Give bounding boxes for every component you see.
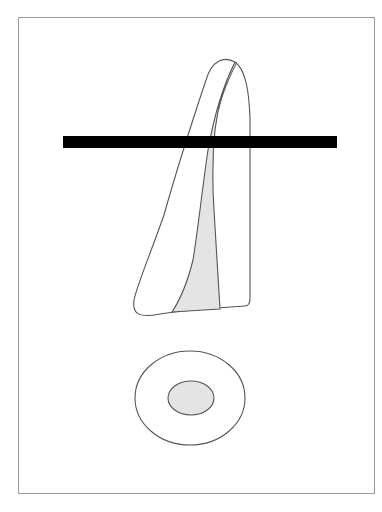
section-bar	[63, 136, 337, 148]
diagram-canvas	[0, 0, 382, 512]
cross-section-canal	[168, 381, 214, 415]
